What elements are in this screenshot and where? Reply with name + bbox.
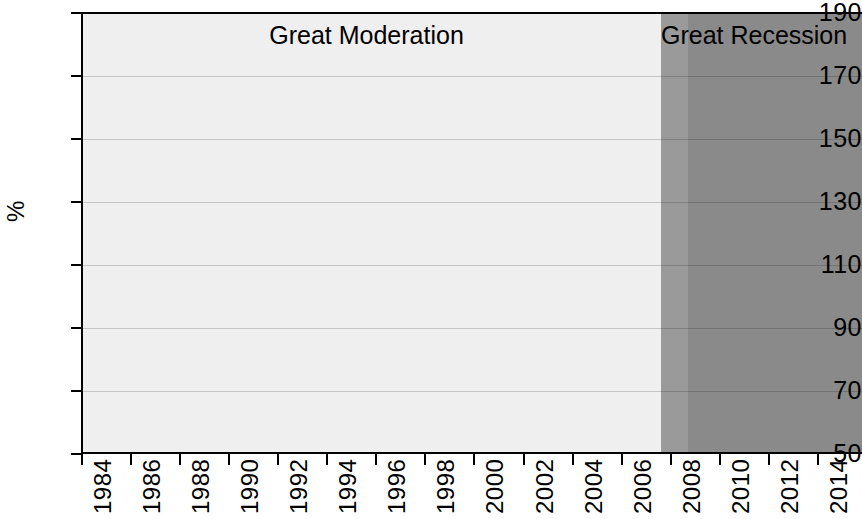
x-tick-2014: [817, 454, 819, 465]
x-tick-label-2014: 2014: [827, 459, 851, 514]
y-tick-130: [71, 201, 83, 203]
x-tick-label-1984: 1984: [91, 459, 115, 514]
x-tick-1986: [130, 454, 132, 465]
y-tick-label-150: 150: [800, 126, 862, 151]
y-tick-150: [71, 138, 83, 140]
x-tick-label-1986: 1986: [140, 459, 164, 514]
period-band-great-moderation: [82, 13, 661, 454]
x-tick-label-2010: 2010: [729, 459, 753, 514]
plot-area: Great ModerationGreat Recession: [82, 13, 862, 454]
x-tick-1996: [375, 454, 377, 465]
x-tick-2008: [670, 454, 672, 465]
x-tick-1998: [424, 454, 426, 465]
chart-figure: Great ModerationGreat Recession 19017015…: [0, 0, 862, 519]
y-tick-170: [71, 75, 83, 77]
y-tick-190: [71, 12, 83, 14]
y-tick-label-170: 170: [800, 63, 862, 88]
x-tick-2006: [621, 454, 623, 465]
x-tick-label-1994: 1994: [336, 459, 360, 514]
x-tick-label-1996: 1996: [385, 459, 409, 514]
gridline-110: [82, 265, 862, 266]
region-label-great-moderation: Great Moderation: [269, 23, 464, 48]
y-tick-label-110: 110: [800, 252, 862, 277]
x-tick-label-2002: 2002: [533, 459, 557, 514]
region-label-great-recession: Great Recession: [661, 23, 847, 48]
axis-left-spine: [81, 13, 83, 455]
x-tick-1990: [228, 454, 230, 465]
x-tick-label-2008: 2008: [680, 459, 704, 514]
gridline-130: [82, 202, 862, 203]
x-tick-label-2000: 2000: [483, 459, 507, 514]
x-tick-label-1998: 1998: [434, 459, 458, 514]
x-tick-label-1988: 1988: [189, 459, 213, 514]
x-tick-2002: [523, 454, 525, 465]
x-tick-label-1992: 1992: [287, 459, 311, 514]
x-tick-2000: [473, 454, 475, 465]
gridline-70: [82, 391, 862, 392]
x-tick-label-1990: 1990: [238, 459, 262, 514]
y-tick-110: [71, 264, 83, 266]
x-tick-label-2012: 2012: [778, 459, 802, 514]
y-tick-label-190: 190: [800, 0, 862, 25]
y-tick-label-130: 130: [800, 189, 862, 214]
y-tick-90: [71, 327, 83, 329]
x-tick-label-2006: 2006: [631, 459, 655, 514]
x-tick-1988: [179, 454, 181, 465]
gridline-170: [82, 76, 862, 77]
y-tick-label-70: 70: [800, 378, 862, 403]
y-tick-label-90: 90: [800, 315, 862, 340]
period-band-great-recession-light: [661, 13, 688, 454]
x-tick-2004: [572, 454, 574, 465]
gridline-90: [82, 328, 862, 329]
gridline-150: [82, 139, 862, 140]
axis-top-spine: [81, 12, 862, 14]
x-tick-1984: [81, 454, 83, 465]
x-tick-2012: [768, 454, 770, 465]
x-tick-2010: [719, 454, 721, 465]
x-tick-1994: [326, 454, 328, 465]
x-tick-label-2004: 2004: [582, 459, 606, 514]
axis-bottom-spine: [81, 452, 862, 454]
y-axis-label: %: [2, 200, 30, 222]
y-tick-70: [71, 390, 83, 392]
x-tick-1992: [277, 454, 279, 465]
